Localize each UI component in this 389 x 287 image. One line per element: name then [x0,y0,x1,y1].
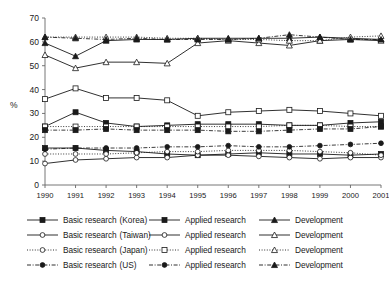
data-point-marker [40,247,45,252]
data-point-marker [348,150,353,155]
series-line [45,127,381,132]
series-development-taiwan [42,36,384,70]
y-tick-label: 50 [30,61,40,71]
data-point-marker [162,247,167,252]
data-point-marker [348,142,353,147]
legend-row: Basic research (Taiwan) Applied research… [0,227,389,242]
legend-item-applied-us: Applied research [148,259,258,271]
line-chart-svg: 010203040506070 199019911992199319941995… [0,0,389,200]
x-tick-label: 1994 [159,191,176,200]
data-point-marker [379,124,384,129]
data-point-marker [104,95,109,100]
data-point-marker [256,129,261,134]
x-axis: 1990199119921993199419951996199719981999… [37,185,389,200]
series-applied-research-korea [43,110,384,129]
data-point-marker [226,110,231,115]
legend-key-basic-research-taiwan [26,229,59,241]
data-point-marker [165,128,170,133]
legend-key-development-taiwan [258,229,291,241]
x-tick-label: 1999 [311,191,328,200]
data-point-marker [73,146,78,151]
legend-country-taiwan: (Taiwan) [119,230,150,240]
data-point-marker [379,141,384,146]
data-point-marker [73,110,78,115]
data-point-marker [287,144,292,149]
data-point-marker [195,144,200,149]
data-point-marker [195,149,200,154]
legend-row: Basic research (Korea) Applied research … [0,212,389,227]
legend-label-development: Development [295,230,343,240]
legend-label-basic-research: Basic research [63,215,116,225]
legend-row: Basic research (US) Applied research Dev… [0,257,389,272]
legend-item-development-taiwan: Development [258,229,373,241]
legend-item-applied-japan: Applied research [148,244,258,256]
legend-label-applied-research: Applied research [185,260,246,270]
data-point-marker [165,149,170,154]
legend-item-development-japan: Development [258,244,373,256]
legend-key-development-japan [258,244,291,256]
data-point-marker [40,217,45,222]
x-tick-label: 2001 [373,191,389,200]
legend-label-applied-research: Applied research [185,215,246,225]
data-point-marker [162,232,167,237]
legend-label-development: Development [295,215,343,225]
data-point-marker [134,95,139,100]
data-point-marker [42,40,48,46]
legend-key-applied-research-taiwan [148,229,181,241]
legend-item-basic-us: Basic research (US) [0,259,148,271]
legend-key-development-korea [258,214,291,226]
data-point-marker [379,113,384,118]
legend-label-applied-research: Applied research [185,245,246,255]
data-point-marker [43,147,48,152]
data-point-marker [348,155,353,160]
series-line [45,143,381,149]
data-point-marker [379,119,384,124]
x-tick-label: 1997 [250,191,267,200]
legend-item-applied-taiwan: Applied research [148,229,258,241]
legend-label-development: Development [295,260,343,270]
data-point-marker [134,155,139,160]
data-point-marker [134,146,139,151]
data-point-marker [318,149,323,154]
data-point-marker [43,152,48,157]
legend-row: Basic research (Japan) Applied research … [0,242,389,257]
data-point-marker [104,126,109,131]
data-point-marker [318,156,323,161]
data-point-marker [226,129,231,134]
legend-item-development-korea: Development [258,214,373,226]
series-line [45,155,381,163]
data-point-marker [287,123,292,128]
data-point-marker [317,126,322,131]
data-point-marker [287,128,292,133]
data-point-marker [226,143,231,148]
legend-country-japan: (Japan) [119,245,147,255]
y-tick-label: 40 [30,85,40,95]
x-tick-label: 1990 [37,191,54,200]
legend-key-development-us [258,259,291,271]
data-point-marker [104,156,109,161]
data-point-marker [226,124,231,129]
data-point-marker [379,153,384,158]
legend-item-basic-korea: Basic research (Korea) [0,214,148,226]
legend-item-basic-taiwan: Basic research (Taiwan) [0,229,148,241]
legend-country-us: (US) [119,260,136,270]
legend-key-applied-research-japan [148,244,181,256]
series-line [45,88,381,115]
series-basic-research-us [43,141,384,152]
data-point-marker [43,161,48,166]
data-point-marker [165,155,170,160]
data-point-marker [162,262,167,267]
legend-country-korea: (Korea) [119,215,147,225]
legend-key-basic-research-korea [26,214,59,226]
data-point-marker [256,124,261,129]
data-point-marker [73,53,79,59]
x-tick-label: 1991 [67,191,84,200]
data-point-marker [73,152,78,157]
data-point-marker [134,150,139,155]
y-tick-label: 30 [30,108,40,118]
legend-label-development: Development [295,245,343,255]
data-point-marker [73,158,78,163]
y-tick-label: 70 [30,13,40,23]
data-point-marker [43,128,48,133]
y-axis-title: % [10,100,18,110]
